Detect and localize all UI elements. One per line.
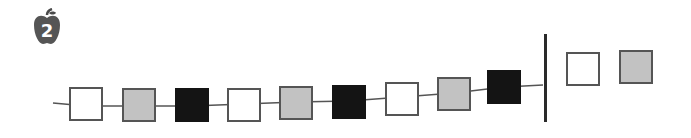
pattern-box-gray	[279, 86, 313, 120]
answer-box-gray[interactable]	[619, 50, 653, 84]
pattern-box-white	[69, 87, 103, 121]
answer-box-white[interactable]	[566, 52, 600, 86]
divider-line	[544, 34, 547, 122]
pattern-box-black	[487, 70, 521, 104]
pattern-box-gray	[437, 77, 471, 111]
pattern-box-gray	[122, 88, 156, 122]
pattern-box-black	[332, 85, 366, 119]
pattern-box-white	[385, 82, 419, 116]
pattern-box-black	[175, 88, 209, 122]
pattern-box-white	[227, 88, 261, 122]
